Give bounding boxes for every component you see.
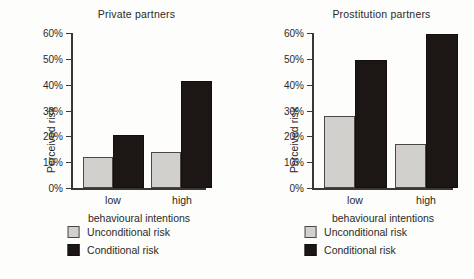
y-tick-mark [307,111,312,112]
y-tick-label: 60% [284,28,304,39]
chart-title: Prostitution partners [237,8,474,20]
y-tick-label: 10% [284,157,304,168]
chart-panel-private-partners: Private partners Perceived risk 0% 10% 2… [0,0,237,279]
figure-two-panel-bar-charts: Private partners Perceived risk 0% 10% 2… [0,0,474,279]
legend-swatch-icon [304,244,316,256]
bar-unconditional-low [83,157,113,188]
plot-area: 0% 10% 20% 30% 40% 50% [313,33,453,188]
legend: Unconditional risk Conditional risk [67,226,170,256]
y-tick-mark [66,136,71,137]
y-tick-mark [307,136,312,137]
y-tick-mark [66,85,71,86]
bar-conditional-high [426,34,458,188]
y-tick-mark [307,162,312,163]
chart-title: Private partners [0,8,255,20]
x-category-label-low: low [105,194,121,206]
y-tick-label: 60% [43,28,63,39]
legend-label: Unconditional risk [324,226,407,238]
legend-swatch-icon [67,226,79,238]
y-tick-label: 0% [49,183,63,194]
y-tick-mark [66,162,71,163]
legend-item-conditional: Conditional risk [304,244,407,256]
y-tick-mark [307,59,312,60]
y-tick-label: 50% [284,53,304,64]
y-tick-label: 10% [43,157,63,168]
y-axis-line [71,33,75,189]
bar-conditional-high [181,81,212,188]
y-tick-mark [307,85,312,86]
y-tick-label: 30% [284,105,304,116]
y-tick-mark [307,188,312,189]
plot-area: 0% 10% 20% 30% 40% 50% [72,33,206,188]
legend-label: Unconditional risk [87,226,170,238]
chart-panel-prostitution-partners: Prostitution partners Perceived risk 0% … [237,0,474,279]
legend: Unconditional risk Conditional risk [304,226,407,256]
y-tick-label: 40% [284,79,304,90]
bar-unconditional-high [395,144,426,188]
x-axis-title: behavioural intentions [88,212,190,224]
bar-conditional-low [113,135,144,188]
legend-item-conditional: Conditional risk [67,244,170,256]
y-tick-mark [66,59,71,60]
legend-item-unconditional: Unconditional risk [67,226,170,238]
x-axis-line [71,188,206,192]
x-category-label-high: high [172,194,192,206]
bar-conditional-low [355,60,387,188]
y-tick-label: 40% [43,79,63,90]
legend-swatch-icon [304,226,316,238]
legend-swatch-icon [67,244,79,256]
y-tick-mark [66,188,71,189]
legend-item-unconditional: Unconditional risk [304,226,407,238]
legend-label: Conditional risk [87,244,159,256]
y-tick-label: 0% [290,183,304,194]
y-tick-mark [307,33,312,34]
x-axis-line [312,188,453,192]
y-tick-label: 50% [43,53,63,64]
bar-unconditional-high [151,152,181,188]
y-tick-mark [66,111,71,112]
y-tick-label: 20% [43,131,63,142]
y-axis-line [312,33,316,189]
bar-unconditional-low [324,116,355,188]
y-tick-label: 20% [284,131,304,142]
y-tick-mark [66,33,71,34]
y-tick-label: 30% [43,105,63,116]
x-axis-title: behavioural intentions [332,212,434,224]
x-category-label-low: low [347,194,363,206]
legend-label: Conditional risk [324,244,396,256]
x-category-label-high: high [416,194,436,206]
